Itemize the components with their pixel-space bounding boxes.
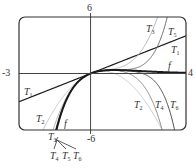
curve-label-t6: T6 (73, 151, 82, 164)
label-leader-lines (54, 137, 76, 149)
x-min-tick-label: -3 (2, 68, 10, 78)
x-max-tick-label: 4 (188, 68, 193, 78)
curve-t1 (19, 36, 186, 102)
curve-label-t4: T4 (155, 100, 164, 113)
curve-label-t3: T3 (48, 132, 57, 145)
curve-label-f: f (64, 119, 67, 129)
taylor-polynomials-plot (0, 0, 196, 168)
curve-label-t3: T3 (146, 24, 155, 37)
curve-label-t2: T2 (36, 114, 45, 127)
curve-label-t2: T2 (134, 100, 143, 113)
curve-label-t5: T5 (62, 151, 71, 164)
curves-group (19, 0, 186, 168)
curve-label-t5: T5 (168, 27, 177, 40)
curve-t3 (19, 0, 186, 168)
y-min-tick-label: -6 (87, 134, 95, 144)
curve-label-t1: T1 (171, 45, 180, 58)
curve-label-t6: T6 (170, 100, 179, 113)
curve-label-t4: T4 (50, 151, 59, 164)
curve-label-t1: T1 (24, 87, 33, 100)
y-max-tick-label: 6 (87, 3, 92, 13)
curve-t5 (19, 0, 186, 168)
curve-label-f: f (168, 61, 171, 71)
